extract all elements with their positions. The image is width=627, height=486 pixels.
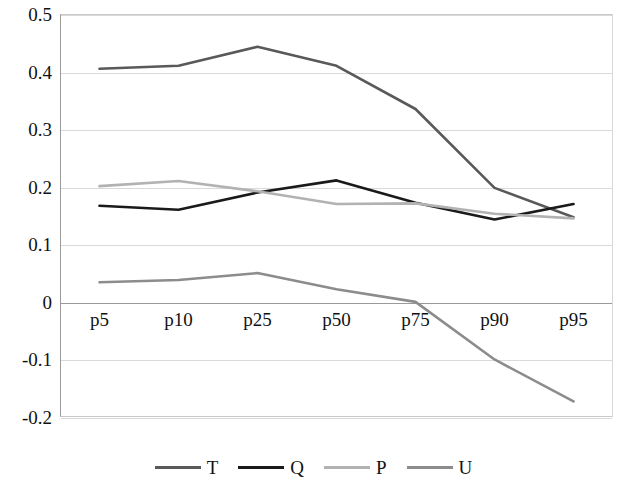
legend-label: P [376,458,387,477]
plot-area [60,14,613,417]
legend-swatch-icon [324,466,370,469]
x-tick-label: p75 [401,310,430,329]
legend-item-p[interactable]: P [318,458,393,477]
x-tick-label: p5 [90,310,109,329]
x-tick-label: p90 [480,310,509,329]
legend-swatch-icon [238,466,284,469]
gridline [61,73,612,74]
gridline [61,360,612,361]
gridline [61,15,612,16]
gridline [61,245,612,246]
legend-swatch-icon [407,466,453,469]
x-tick-label: p95 [559,310,588,329]
y-tick-label: 0.4 [0,63,52,82]
y-tick-label: 0 [0,293,52,312]
legend-item-q[interactable]: Q [232,458,310,477]
chart-legend: TQPU [0,448,627,486]
y-tick-label: 0.2 [0,178,52,197]
legend-label: Q [290,458,304,477]
line-chart: 0.50.40.30.20.10-0.1-0.2 p5p10p25p50p75p… [0,0,627,486]
y-tick-label: 0.5 [0,5,52,24]
legend-item-u[interactable]: U [401,458,479,477]
legend-label: T [207,458,219,477]
legend-swatch-icon [155,466,201,469]
x-tick-label: p50 [322,310,351,329]
legend-label: U [459,458,473,477]
x-tick-label: p10 [164,310,193,329]
legend-item-t[interactable]: T [149,458,225,477]
y-tick-label: 0.1 [0,235,52,254]
gridline [61,130,612,131]
x-tick-label: p25 [243,310,272,329]
y-axis-tick-labels: 0.50.40.30.20.10-0.1-0.2 [0,14,56,417]
gridline [61,188,612,189]
zero-gridline [61,303,612,304]
y-tick-label: -0.1 [0,350,52,369]
gridline [61,418,612,419]
y-tick-label: 0.3 [0,120,52,139]
y-tick-label: -0.2 [0,408,52,427]
